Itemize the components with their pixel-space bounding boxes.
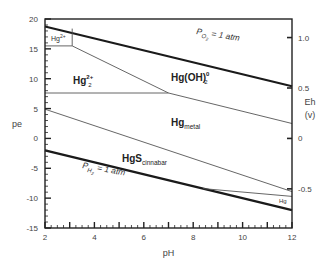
x-tick-label: 4 (92, 233, 97, 242)
y2-tick-label: -0.5 (298, 185, 312, 194)
x-axis-title: pH (163, 248, 175, 258)
field-label-hg22plus: Hg2+2 (73, 74, 94, 88)
y-tick-label: 20 (29, 15, 38, 24)
field-label-hg2plus: Hg2+ (51, 33, 66, 43)
field-label-hgs-cinnabar: HgScinnabar (122, 153, 168, 166)
boundary-line (169, 93, 293, 124)
y2-axis-title: Eh (304, 97, 315, 107)
po2-label: PO2 = 1 atm (195, 26, 240, 47)
y2-tick-label: 0.5 (298, 84, 310, 93)
y2-axis: 1.00.50-0.5Eh(v) (287, 34, 316, 194)
y2-tick-label: 1.0 (298, 34, 310, 43)
y2-axis-unit: (v) (305, 110, 316, 120)
x-tick-label: 6 (142, 233, 147, 242)
y-tick-label: -15 (26, 224, 38, 233)
y-tick-label: -5 (31, 164, 39, 173)
field-label-hg-metal: Hgmetal (171, 117, 201, 130)
ph2-label: PH2 = 1 atm (81, 160, 126, 181)
y-tick-label: -10 (26, 194, 38, 203)
y-tick-label: 15 (29, 45, 38, 54)
boundary-line (45, 150, 292, 210)
x-tick-label: 8 (191, 233, 196, 242)
boundary-lines (45, 27, 292, 211)
y-tick-label: 10 (29, 75, 38, 84)
field-label-hgoh2: Hg(OH)02 (171, 71, 210, 85)
field-label-hg-small: Hg (279, 198, 287, 204)
y-tick-label: 0 (34, 134, 39, 143)
x-tick-label: 10 (238, 233, 247, 242)
y2-tick-label: 0 (298, 134, 303, 143)
y-tick-label: 5 (34, 105, 39, 114)
x-tick-label: 2 (43, 233, 48, 242)
y-axis-title: pe (12, 119, 22, 129)
x-tick-label: 12 (288, 233, 297, 242)
eh-ph-diagram: 20151050-5-10-15pe24681012pH1.00.50-0.5E… (0, 0, 336, 268)
